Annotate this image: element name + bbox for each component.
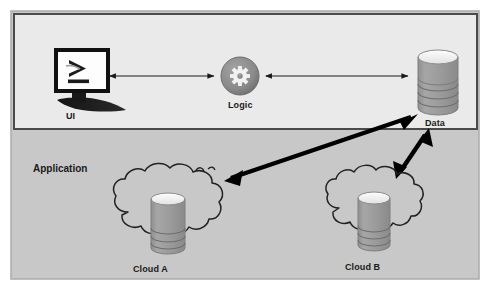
logic-node[interactable]: [221, 57, 259, 95]
architecture-diagram-svg: [0, 0, 491, 290]
node-label-ui: UI: [66, 111, 75, 121]
data-node[interactable]: [418, 50, 458, 115]
zone-label-application: Application: [33, 163, 87, 174]
node-label-data: Data: [425, 118, 445, 128]
cloud-a-database-icon: [151, 193, 185, 254]
diagram-canvas: Application UI Logic Data Cloud A Cloud …: [0, 0, 491, 290]
node-label-cloud-b: Cloud B: [345, 262, 380, 272]
database-cylinder-icon: [418, 50, 458, 115]
node-label-cloud-a: Cloud A: [133, 264, 168, 274]
cloud-b-database-icon: [358, 192, 390, 251]
node-label-logic: Logic: [228, 100, 253, 110]
